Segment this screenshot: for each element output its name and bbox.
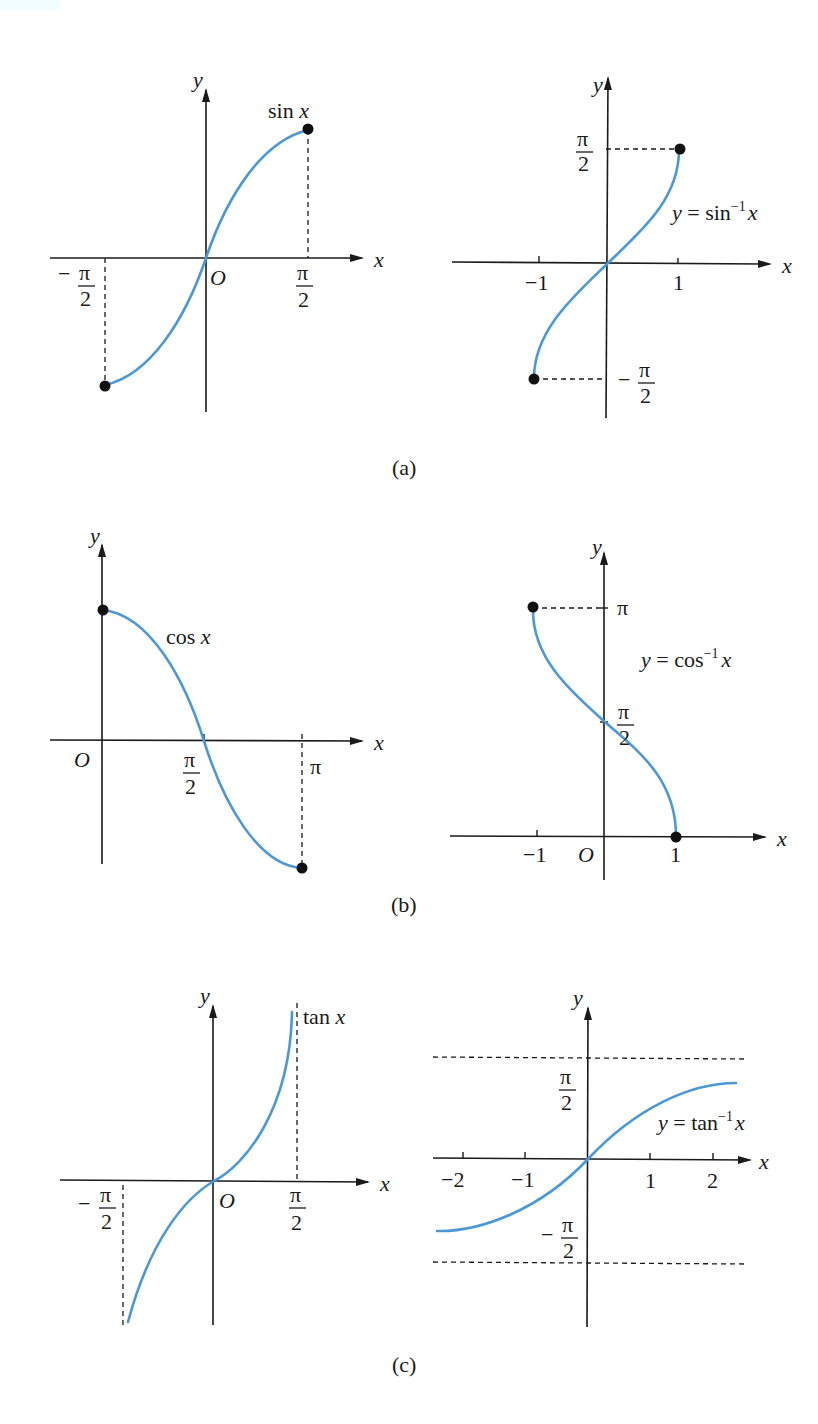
origin-label: O: [219, 1188, 235, 1213]
y-axis: [587, 1008, 588, 1327]
inverse-exponent: −1: [718, 1109, 733, 1124]
tick-numerator: π: [297, 260, 308, 285]
asymptote: [433, 1262, 744, 1264]
tick-numerator: π: [577, 126, 588, 151]
tick-denominator: 2: [640, 383, 651, 408]
curve-label-tan: tan x: [303, 1004, 345, 1029]
tick-numerator: π: [618, 699, 629, 724]
tick-denominator: 2: [561, 1090, 572, 1115]
caption-c: (c): [392, 1352, 416, 1377]
endpoint-dot: [303, 124, 314, 135]
inverse-trig-figure: y x O sin x − π 2 π 2 y x −1 1 π 2 − π 2…: [0, 0, 818, 1424]
minus-sign: −: [58, 261, 70, 286]
panel-c-right-arctan: y x −2 −1 1 2 π 2 − π 2 y = tan−1x: [433, 985, 769, 1327]
var-x-text: x: [298, 98, 309, 123]
tick-denominator: 2: [563, 1238, 574, 1263]
inverse-exponent: −1: [704, 646, 719, 661]
tick-denominator: 2: [291, 1210, 302, 1235]
tick-numerator: π: [290, 1182, 301, 1207]
tick-numerator: π: [560, 1064, 571, 1089]
y-text: y: [639, 647, 651, 672]
tick-numerator: π: [639, 357, 650, 382]
minus-sign: −: [541, 1222, 553, 1247]
minus-sign: −: [78, 1191, 90, 1216]
scan-artifact: [0, 0, 60, 10]
y-text: y: [670, 200, 682, 225]
panel-a-right-arcsin: y x −1 1 π 2 − π 2 y = sin−1x: [452, 72, 792, 418]
caption-b: (b): [391, 892, 417, 917]
x-tick-label: −1: [525, 270, 548, 295]
y-axis-label: y: [198, 983, 210, 1008]
curve-label-sin: sin x: [268, 98, 309, 123]
y-axis-label: y: [590, 534, 602, 559]
var-x-text: x: [747, 200, 758, 225]
tick-denominator: 2: [185, 774, 196, 799]
tick-numerator: π: [184, 747, 195, 772]
var-x-text: x: [720, 647, 731, 672]
y-text: y: [656, 1110, 668, 1135]
y-axis-label: y: [88, 523, 100, 548]
origin-label: O: [578, 842, 594, 867]
tick-numerator: π: [562, 1212, 573, 1237]
x-axis-label: x: [781, 253, 792, 278]
panel-b-left-cos: y x O cos x π 2 π: [50, 523, 384, 874]
tan-curve: [128, 1012, 292, 1322]
y-axis-label: y: [191, 67, 203, 92]
x-tick-label: 2: [707, 1168, 718, 1193]
endpoint-dot: [100, 381, 111, 392]
x-axis-label: x: [776, 826, 787, 851]
curve-label-arccos: y = cos−1x: [639, 646, 731, 672]
tick-denominator: 2: [80, 286, 91, 311]
x-tick-label: −2: [441, 1167, 464, 1192]
x-axis-label: x: [379, 1171, 390, 1196]
inverse-exponent: −1: [731, 199, 746, 214]
y-axis-label: y: [571, 985, 583, 1010]
var-x-text: x: [334, 1004, 345, 1029]
tick-denominator: 2: [101, 1209, 112, 1234]
panel-c-left-tan: y x O tan x − π 2 π 2: [60, 983, 390, 1328]
x-tick-label: −1: [511, 1167, 534, 1192]
y-axis: [606, 78, 608, 418]
x-axis: [50, 740, 362, 741]
curve-label-cos: cos x: [166, 624, 211, 649]
curve-label-arcsin: y = sin−1x: [670, 199, 758, 225]
x-tick-label: 1: [670, 842, 681, 867]
endpoint-dot: [529, 374, 540, 385]
minus-sign: −: [618, 367, 630, 392]
endpoint-dot: [528, 602, 539, 613]
y-tick-label: π: [617, 595, 628, 620]
panel-a-left-sin: y x O sin x − π 2 π 2: [50, 67, 384, 412]
endpoint-dot: [671, 832, 682, 843]
curve-label-arctan: y = tan−1x: [656, 1109, 745, 1135]
arctan-curve: [437, 1083, 736, 1231]
x-tick-label: −1: [523, 842, 546, 867]
tick-denominator: 2: [298, 287, 309, 312]
caption-a: (a): [392, 455, 416, 480]
var-x-text: x: [734, 1110, 745, 1135]
x-axis-label: x: [373, 247, 384, 272]
endpoint-dot: [675, 144, 686, 155]
sin-fn-text: sin: [268, 98, 294, 123]
x-axis-label: x: [373, 730, 384, 755]
x-tick-label: 1: [645, 1168, 656, 1193]
panel-b-right-arccos: y x O −1 1 π π 2 y = cos−1x: [450, 534, 787, 880]
x-axis: [433, 1158, 750, 1160]
tick-denominator: 2: [578, 151, 589, 176]
origin-label: O: [74, 747, 90, 772]
var-x-text: x: [200, 624, 211, 649]
x-axis: [452, 262, 770, 264]
origin-label: O: [210, 265, 226, 290]
endpoint-dot: [297, 863, 308, 874]
x-axis-label: x: [758, 1149, 769, 1174]
x-tick-label: π: [310, 754, 321, 779]
y-axis-label: y: [591, 72, 603, 97]
endpoint-dot: [98, 605, 109, 616]
tick-numerator: π: [100, 1182, 111, 1207]
x-tick-label: 1: [673, 270, 684, 295]
x-axis: [450, 836, 765, 837]
tick-denominator: 2: [619, 725, 630, 750]
tick-numerator: π: [79, 260, 90, 285]
